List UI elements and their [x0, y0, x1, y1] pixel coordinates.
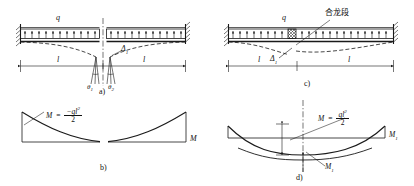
panel-b-denominator: 2: [64, 116, 81, 124]
panel-c-linework: [224, 20, 398, 72]
panel-d-right-sub: 1: [395, 136, 398, 141]
panel-a-linework: [16, 18, 190, 86]
panel-c-key: c): [304, 80, 310, 88]
panel-a-gap-sub: 1: [126, 50, 129, 55]
panel-c-gap-sub: 1: [275, 60, 278, 65]
panel-d-linework: [228, 100, 385, 172]
panel-b-equals: =: [56, 111, 60, 120]
panel-b-key: b): [100, 164, 107, 172]
panel-b-numerator-sup: 2: [77, 106, 80, 111]
panel-c-load-label: q: [282, 14, 286, 22]
panel-b-right-label: M: [190, 135, 197, 143]
panel-d-denominator: 2: [336, 119, 348, 127]
panel-a-span-right-label: l: [143, 56, 145, 64]
panel-a-theta1-sub: 1: [90, 87, 93, 92]
panel-d-numerator-sup: 2: [344, 109, 347, 114]
engineering-figure: q l l Δ1 θ1 θ2 a) M = −ql2 2 M b) q 合龙段 …: [0, 0, 414, 186]
panel-a-span-left-label: l: [57, 56, 59, 64]
panel-d-fraction: ql2 2: [336, 109, 348, 127]
figure-linework: [0, 0, 414, 186]
panel-b-numerator: −ql: [66, 106, 77, 115]
panel-a-load-label: q: [56, 14, 60, 22]
panel-d-equals: =: [328, 114, 332, 123]
panel-b-moment-symbol: M: [46, 111, 52, 120]
panel-d-key: d): [296, 174, 303, 182]
panel-a-key: a): [99, 88, 105, 96]
panel-c-closure-label: 合龙段: [325, 9, 349, 17]
panel-c-span-left-label: l: [258, 56, 260, 64]
panel-c-span-right-label: l: [348, 56, 350, 64]
panel-b-fraction: −ql2 2: [64, 106, 81, 124]
panel-d-mid-sub: 1: [331, 168, 334, 173]
panel-d-moment-symbol: M: [318, 114, 324, 123]
panel-a-theta2-sub: 2: [111, 87, 114, 92]
